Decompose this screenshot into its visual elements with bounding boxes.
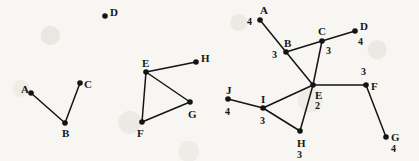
- node-label-A: A: [260, 5, 268, 16]
- node-label-D: D: [110, 7, 118, 18]
- node-label-J: J: [226, 85, 232, 96]
- node-label-H: H: [297, 138, 306, 149]
- node-label-D: D: [360, 21, 368, 32]
- node-label-H: H: [201, 53, 210, 64]
- node-label-A: A: [21, 84, 29, 95]
- node-label-F: F: [371, 81, 378, 92]
- node-label-F: F: [137, 128, 144, 139]
- graph-label-layer: ABCDEFGHA4B3C3D4E2F3G4H3I3J4: [0, 0, 419, 161]
- node-weight-J: 4: [225, 107, 230, 117]
- node-weight-F: 3: [361, 67, 366, 77]
- node-weight-D: 4: [358, 37, 363, 47]
- node-weight-B: 3: [272, 50, 277, 60]
- node-weight-C: 3: [326, 46, 331, 56]
- node-label-C: C: [318, 26, 326, 37]
- node-label-G: G: [188, 109, 197, 120]
- node-label-E: E: [142, 58, 149, 69]
- graph-figure: ABCDEFGHA4B3C3D4E2F3G4H3I3J4: [0, 0, 419, 161]
- node-weight-G: 4: [391, 144, 396, 154]
- node-label-G: G: [391, 132, 400, 143]
- node-weight-H: 3: [297, 150, 302, 160]
- node-label-I: I: [261, 94, 265, 105]
- node-weight-E: 2: [315, 101, 320, 111]
- node-label-B: B: [284, 38, 291, 49]
- node-weight-I: 3: [260, 116, 265, 126]
- node-label-C: C: [84, 79, 92, 90]
- node-label-B: B: [62, 128, 69, 139]
- node-weight-A: 4: [247, 17, 252, 27]
